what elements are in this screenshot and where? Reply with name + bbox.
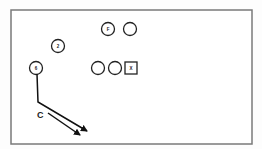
player-circle-icon [124, 23, 137, 36]
diagram-svg: F26X C [0, 0, 262, 149]
player-label: X [129, 66, 132, 71]
player-square: X [125, 62, 137, 74]
player-circle: F [102, 23, 115, 36]
player-circle [109, 62, 122, 75]
player-circle: 6 [30, 62, 43, 75]
play-diagram: F26X C [0, 0, 262, 149]
player-circle-icon [109, 62, 122, 75]
player-circle [124, 23, 137, 36]
player-circle [92, 62, 105, 75]
player-circle-icon [92, 62, 105, 75]
route-label: C [37, 110, 44, 120]
player-circle: 2 [52, 40, 65, 53]
player-label: F [107, 27, 110, 32]
